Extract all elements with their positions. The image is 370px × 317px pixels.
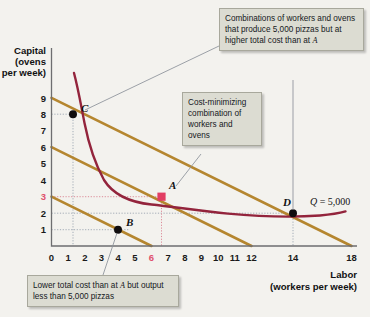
xtick-1: 1 [66,252,72,263]
ytick-8: 8 [41,109,46,120]
ytick-3: 3 [41,191,46,202]
data-point-b [114,226,122,234]
xtick-8: 8 [182,252,187,263]
y-axis-title-line1: Capital [14,45,46,56]
callout-top-right-em: A [312,36,317,45]
y-axis-title-line2: (ovens [15,56,46,67]
xtick-7: 7 [166,252,171,263]
callout-lower-cost: Lower total cost than at A but output le… [27,275,179,307]
ytick-1: 1 [41,224,47,235]
point-label-c: C [81,102,89,114]
xtick-14: 14 [288,252,299,263]
data-point-a [157,193,165,201]
isocost-line-mid [52,147,252,246]
xtick-9: 9 [199,252,204,263]
callout-cost-minimizing: Cost-minimizing combination of workers a… [182,92,262,146]
point-label-d: D [282,196,291,208]
ytick-5: 5 [41,158,47,169]
ytick-6: 6 [41,142,46,153]
xtick-18: 18 [346,252,357,263]
x-axis-title-line1: Labor [330,269,357,280]
point-label-b: B [125,216,133,228]
y-axis-title-line3: per week) [2,67,46,78]
xtick-6: 6 [149,252,154,263]
isoquant-isocost-figure: C B A D Q = 5,000 9 8 7 6 5 4 3 2 1 0 1 … [0,0,370,317]
data-point-d [289,209,297,217]
xtick-5: 5 [132,252,138,263]
xtick-0: 0 [49,252,54,263]
point-label-a: A [168,179,176,191]
xtick-3: 3 [99,252,104,263]
callout-higher-cost: Combinations of workers and ovens that p… [219,8,364,51]
ytick-2: 2 [41,208,46,219]
q-value: = 5,000 [317,196,350,207]
isocost-line-low [52,197,152,246]
xtick-2: 2 [82,252,87,263]
callout-middle-text: Cost-minimizing combination of workers a… [188,98,246,140]
ytick-7: 7 [41,125,46,136]
xtick-10: 10 [213,252,224,263]
ytick-9: 9 [41,93,46,104]
xtick-12: 12 [246,252,257,263]
x-axis-title-line2: (workers per week) [270,281,357,292]
xtick-11: 11 [230,252,241,263]
callout-bottom-text-pre: Lower total cost than at [33,281,120,290]
xtick-4: 4 [116,252,122,263]
callout-top-right-text-pre: Combinations of workers and ovens that p… [225,14,355,45]
data-point-c [69,110,77,118]
isoquant-curve-label: Q = 5,000 [310,196,350,207]
ytick-4: 4 [41,175,47,186]
